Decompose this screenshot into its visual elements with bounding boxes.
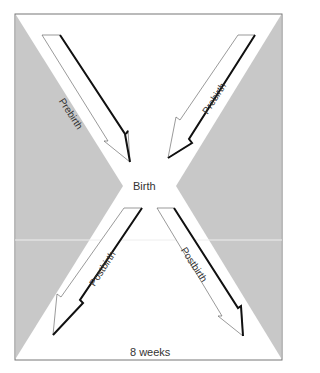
bottom-label: 8 weeks: [130, 346, 170, 358]
center-label: Birth: [133, 180, 156, 192]
